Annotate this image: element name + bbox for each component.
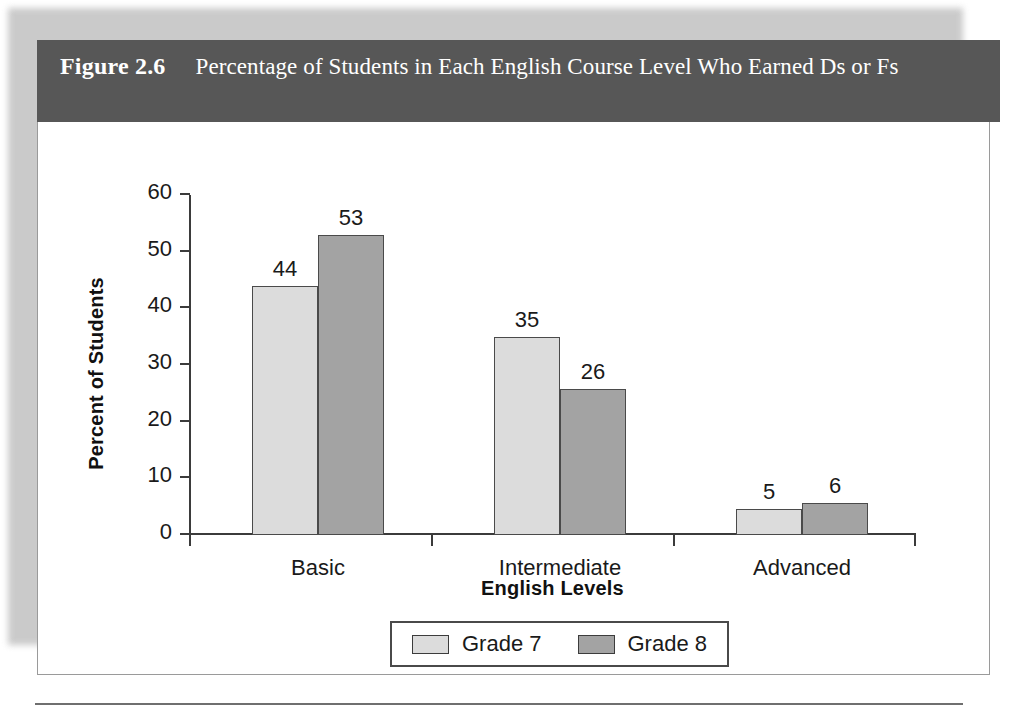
y-tick-30: 30 — [180, 363, 190, 365]
bar-label-basic-grade7: 44 — [252, 256, 318, 282]
y-tick-label-20: 20 — [148, 406, 172, 432]
chart-legend: Grade 7 Grade 8 — [390, 621, 729, 667]
y-tick-10: 10 — [180, 476, 190, 478]
figure-container: Figure 2.6 Percentage of Students in Eac… — [37, 40, 992, 677]
y-tick-50: 50 — [180, 250, 190, 252]
bar-intermediate-grade8 — [560, 389, 626, 535]
x-tick-group-1 — [431, 535, 433, 546]
legend-item-grade-8: Grade 8 — [578, 631, 708, 657]
legend-item-grade-7: Grade 7 — [412, 631, 542, 657]
bar-basic-grade7 — [252, 286, 318, 535]
bar-advanced-grade7 — [736, 509, 802, 535]
legend-swatch-grade-7 — [412, 635, 449, 654]
x-tick-group-2 — [673, 535, 675, 546]
bar-label-basic-grade8: 53 — [318, 205, 384, 231]
y-tick-40: 40 — [180, 306, 190, 308]
bar-chart: Percent of Students 60 50 40 30 2 — [38, 122, 991, 675]
figure-title: Percentage of Students in Each English C… — [196, 51, 899, 82]
y-tick-20: 20 — [180, 420, 190, 422]
bar-basic-grade8 — [318, 235, 384, 535]
figure-number-label: Figure 2.6 — [60, 51, 196, 83]
y-axis-title: Percent of Students — [85, 254, 108, 494]
x-axis-title: English Levels — [189, 577, 916, 600]
bar-label-intermediate-grade7: 35 — [494, 307, 560, 333]
y-tick-label-30: 30 — [148, 349, 172, 375]
plot-area: 60 50 40 30 20 10 0 — [189, 195, 916, 535]
bar-intermediate-grade7 — [494, 337, 560, 535]
bar-label-advanced-grade8: 6 — [802, 473, 868, 499]
x-tick-end — [914, 535, 916, 546]
figure-header-row: Figure 2.6 Percentage of Students in Eac… — [60, 51, 982, 83]
page-divider-rule — [35, 703, 963, 705]
y-tick-label-50: 50 — [148, 236, 172, 262]
figure-panel: Percent of Students 60 50 40 30 2 — [37, 122, 990, 675]
legend-swatch-grade-8 — [578, 635, 615, 654]
y-tick-label-0: 0 — [160, 519, 172, 545]
legend-label-grade-7: Grade 7 — [462, 631, 542, 657]
x-tick-start — [189, 535, 191, 546]
y-tick-label-40: 40 — [148, 292, 172, 318]
bar-advanced-grade8 — [802, 503, 868, 535]
y-tick-label-10: 10 — [148, 462, 172, 488]
y-axis-line — [189, 195, 191, 535]
bar-label-advanced-grade7: 5 — [736, 479, 802, 505]
legend-label-grade-8: Grade 8 — [628, 631, 708, 657]
y-tick-label-60: 60 — [148, 179, 172, 205]
bar-label-intermediate-grade8: 26 — [560, 359, 626, 385]
y-tick-60: 60 — [180, 193, 190, 195]
figure-header-band: Figure 2.6 Percentage of Students in Eac… — [37, 40, 1000, 122]
